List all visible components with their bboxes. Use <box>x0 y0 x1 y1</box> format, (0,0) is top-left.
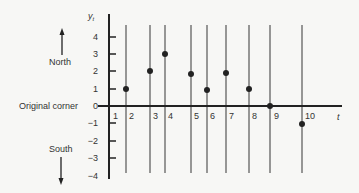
svg-text:4: 4 <box>93 32 98 42</box>
svg-text:2: 2 <box>129 111 134 121</box>
svg-text:1: 1 <box>113 111 118 121</box>
svg-text:10: 10 <box>305 111 315 121</box>
svg-text:−3: −3 <box>88 153 98 163</box>
random-walk-diagram: 4 3 2 1 0 −1 −2 −3 −4 1 2 3 4 5 6 7 8 9 … <box>0 0 359 193</box>
y-ticks <box>109 37 116 158</box>
svg-text:3: 3 <box>93 49 98 59</box>
svg-text:5: 5 <box>194 111 199 121</box>
y-axis-label: yt <box>87 11 95 22</box>
time-lines <box>126 25 302 173</box>
north-label: North <box>49 57 71 67</box>
y-tick-labels: 4 3 2 1 0 −1 −2 −3 −4 <box>88 32 98 181</box>
svg-text:6: 6 <box>210 111 215 121</box>
svg-text:3: 3 <box>153 111 158 121</box>
svg-text:8: 8 <box>252 111 257 121</box>
t-tick-labels: 1 2 3 4 5 6 7 8 9 10 <box>113 111 315 121</box>
north-arrow-icon <box>60 28 65 55</box>
svg-text:9: 9 <box>274 111 279 121</box>
t-axis-label: t <box>337 112 340 122</box>
south-label: South <box>49 144 73 154</box>
svg-text:2: 2 <box>93 66 98 76</box>
svg-text:0: 0 <box>93 101 98 111</box>
svg-text:−2: −2 <box>88 136 98 146</box>
svg-text:7: 7 <box>229 111 234 121</box>
south-arrow-icon <box>59 157 64 185</box>
svg-text:4: 4 <box>168 111 173 121</box>
svg-text:−1: −1 <box>88 118 98 128</box>
origin-label: Original corner <box>19 101 78 111</box>
svg-text:1: 1 <box>93 84 98 94</box>
svg-text:−4: −4 <box>88 171 98 181</box>
